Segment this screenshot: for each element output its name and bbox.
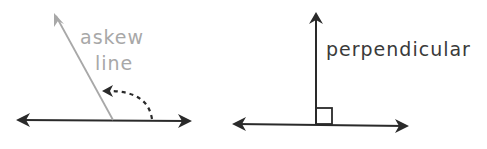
right-angle-marker <box>316 108 332 124</box>
left-base-line <box>16 113 192 128</box>
diagram-canvas <box>0 0 487 149</box>
askew-label-line2: line <box>95 52 133 74</box>
askew-label-line1: askew <box>80 26 144 48</box>
right-base-line <box>232 117 409 133</box>
perpendicular-label: perpendicular <box>326 38 471 60</box>
